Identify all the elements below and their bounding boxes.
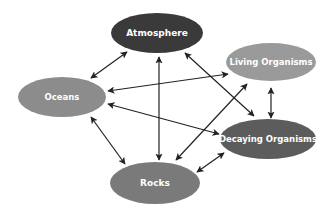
arrow-oceans-decaying <box>108 104 219 134</box>
node-atmosphere: Atmosphere <box>111 13 203 53</box>
node-rocks: Rocks <box>110 162 200 204</box>
node-label-rocks: Rocks <box>140 178 170 188</box>
node-label-atmosphere: Atmosphere <box>126 28 188 38</box>
arrow-oceans-rocks <box>91 117 125 164</box>
node-living: Living Organisms <box>226 43 316 81</box>
cycle-nodes: AtmosphereLiving OrganismsOceansDecaying… <box>18 13 317 204</box>
node-label-oceans: Oceans <box>45 92 80 102</box>
arrow-oceans-living <box>108 74 228 91</box>
node-label-living: Living Organisms <box>229 57 312 67</box>
arrow-oceans-atmosphere <box>91 52 127 78</box>
node-decaying: Decaying Organisms <box>219 119 317 159</box>
arrow-rocks-decaying <box>197 153 224 172</box>
node-label-decaying: Decaying Organisms <box>219 134 317 144</box>
node-oceans: Oceans <box>18 77 106 117</box>
carbon-cycle-diagram: AtmosphereLiving OrganismsOceansDecaying… <box>0 0 332 212</box>
